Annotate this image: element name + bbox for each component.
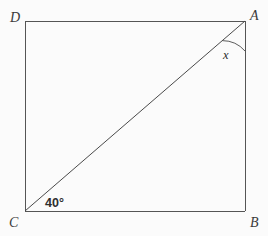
geometry-figure: D A B C 40° x	[0, 0, 268, 236]
vertex-label-B: B	[250, 216, 259, 230]
geometry-canvas	[0, 0, 268, 236]
vertex-label-D: D	[10, 11, 20, 25]
angle-label-at-A: x	[223, 49, 229, 62]
diagonal-CA-line	[25, 21, 245, 211]
angle-label-at-C: 40°	[45, 197, 64, 210]
vertex-label-C: C	[9, 216, 18, 230]
vertex-label-A: A	[250, 9, 259, 23]
